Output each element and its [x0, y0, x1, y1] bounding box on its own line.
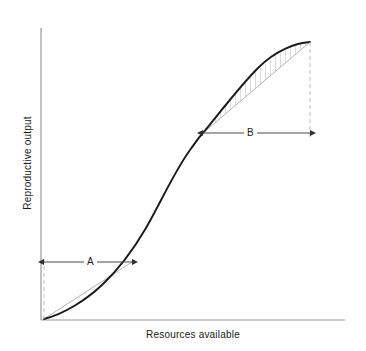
region-b-chord	[203, 42, 310, 133]
y-axis-label: Reproductive output	[22, 48, 33, 278]
region-a-label: A	[84, 256, 97, 267]
region-a-chord	[44, 262, 132, 319]
region-a-group	[44, 262, 132, 319]
response-curve	[44, 42, 310, 319]
chart-canvas	[0, 0, 366, 351]
dashed-guide-group	[44, 42, 310, 319]
region-b-label: B	[244, 127, 257, 138]
region-b-group	[203, 42, 310, 133]
x-axis-label: Resources available	[41, 329, 345, 340]
axis-group	[41, 28, 345, 320]
figure-container: Reproductive output Resources available …	[0, 0, 366, 351]
